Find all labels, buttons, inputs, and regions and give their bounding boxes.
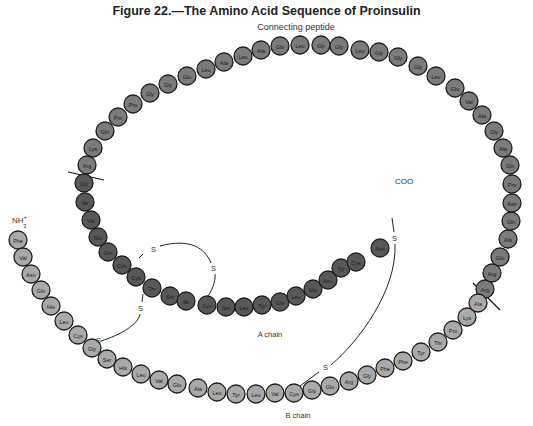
residue-label: Tyr (417, 350, 425, 356)
residue-label: Val (87, 218, 94, 224)
residue-label: Glu (183, 74, 191, 80)
residue-label: Glu (309, 287, 317, 293)
b-chain-residue: Gly (83, 339, 101, 357)
residue-label: Gln (101, 129, 109, 135)
connecting-peptide-residue: Ala (252, 41, 270, 59)
b-chain-residue: Val (150, 371, 168, 389)
b-chain-residue: Gly (358, 366, 376, 384)
c-terminus-label: COO (395, 177, 413, 186)
connecting-peptide-residue: Leu (197, 60, 215, 78)
connecting-peptide-residue: Gly (159, 75, 177, 93)
connecting-peptide-residue: Leu (291, 36, 309, 54)
residue-label: Gln (276, 300, 284, 306)
residue-label: Ile (183, 299, 189, 305)
residue-label: Ala (478, 113, 486, 119)
sulfur-label: S (392, 234, 397, 243)
residue-label: Gly (375, 50, 383, 56)
residue-label: Ala (499, 146, 507, 152)
connecting-peptide-residue: Gly (485, 122, 503, 140)
residue-label: Gly (317, 43, 325, 49)
disulfide-a7-b7 (83, 294, 143, 341)
residue-label: Tyr (232, 392, 240, 398)
residue-label: Gly (146, 91, 154, 97)
residue-label: Ala (474, 301, 482, 307)
residue-label: Ala (220, 60, 228, 66)
residue-label: Thr (434, 340, 442, 346)
b-chain-residue: Pro (444, 321, 462, 339)
b-chain-residue: Phe (394, 352, 412, 370)
b-chain-residue: Cys (285, 384, 303, 402)
connecting-peptide-residue: Lys (84, 139, 102, 157)
a-chain-residue: Asn (371, 239, 389, 257)
residue-label: Leu (137, 372, 146, 378)
sulfur-label: S (151, 245, 156, 254)
residue-label: Gly (490, 129, 498, 135)
residue-label: Ala (257, 48, 265, 54)
residue-label: Pro (114, 115, 122, 121)
b-chain-residue: His (42, 297, 60, 315)
a-chain-residue: Leu (235, 298, 253, 316)
connecting-peptide-residue: Gln (271, 37, 289, 55)
connecting-peptide-residue: Arg (483, 264, 501, 282)
connecting-peptide-residue: Leu (427, 67, 445, 85)
connecting-peptide-residues: ArgArgGluAlaGlnAsnProGlnAlaGlyAlaValGluL… (78, 36, 521, 298)
b-chain-residue: Tyr (227, 385, 245, 403)
residue-label: Gly (394, 55, 402, 61)
b-chain-residue: Ala (469, 294, 487, 312)
a-chain-residue: Ser (161, 287, 179, 305)
n-terminus-charge: + (24, 214, 28, 220)
b-chain-residue: Arg (340, 372, 358, 390)
a-chain-residue: Ile (177, 292, 195, 310)
residue-label: Gly (363, 373, 371, 379)
connecting-peptide-residue: Gly (141, 84, 159, 102)
residue-label: Leu (252, 392, 261, 398)
residue-label: Gln (506, 163, 514, 169)
b-chain-residue: Val (266, 384, 284, 402)
residue-label: Leu (356, 48, 365, 54)
connecting-peptide-residue: Ala (215, 53, 233, 71)
residue-label: Ile (82, 200, 88, 206)
residue-label: Gly (414, 64, 422, 70)
n-terminus-text: NH (12, 216, 24, 225)
b-chain-residue: Ser (98, 350, 116, 368)
residue-label: Ala (194, 386, 202, 392)
connecting-peptide-residue: Leu (351, 41, 369, 59)
residue-label: Pro (449, 328, 457, 334)
residue-label: Asn (507, 201, 516, 207)
connecting-peptide-residue: Leu (234, 47, 252, 65)
residue-label: Val (19, 255, 26, 261)
residue-label: Gln (104, 250, 112, 256)
connecting-peptide-residue: Pro (124, 95, 142, 113)
connecting-peptide-residue: Glu (178, 67, 196, 85)
residue-label: Arg (345, 379, 353, 385)
connecting-peptide-residue: Glu (446, 79, 464, 97)
connecting-peptide-residue: Ala (473, 106, 491, 124)
residue-label: Asn (26, 272, 35, 278)
connecting-peptide-residue: Gln (502, 212, 520, 230)
residue-label: Glu (94, 235, 102, 241)
residue-label: Leu (296, 43, 305, 49)
residue-label: Phe (398, 359, 408, 365)
residue-label: Lys (463, 315, 471, 321)
residue-label: Pro (508, 182, 516, 188)
residue-label: Asn (323, 278, 332, 284)
b-chain-residue: Leu (208, 383, 226, 401)
connecting-peptide-label: Connecting peptide (257, 22, 335, 32)
residue-label: Arg (488, 271, 496, 277)
residue-label: Cys (117, 263, 127, 269)
residue-label: Gln (37, 288, 45, 294)
a-chain-residue: Gln (99, 243, 117, 261)
residue-label: Leu (213, 390, 222, 396)
a-chain-residues: GlyIleValGluGlnCysCysThrSerIleCysSerLeuT… (75, 174, 389, 316)
labels-layer: Connecting peptide A chain B chain NH+3 … (12, 22, 413, 420)
connecting-peptide-residue: Glu (491, 248, 509, 266)
residue-label: Glu (326, 384, 334, 390)
residue-label: Gly (308, 388, 316, 394)
b-chain-residue: Glu (321, 377, 339, 395)
residue-label: Leu (239, 54, 248, 60)
residue-label: Leu (432, 74, 441, 80)
residue-label: Val (271, 391, 278, 397)
connecting-peptide-residue: Gly (312, 36, 330, 54)
residue-label: Phe (13, 238, 23, 244)
a-chain-residue: Gly (75, 174, 93, 192)
